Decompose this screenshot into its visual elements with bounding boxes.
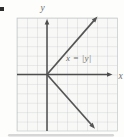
bottom-shadow-edge <box>8 134 114 136</box>
y-axis-label: y <box>40 3 46 13</box>
graph-figure: y x x = |y| <box>0 0 124 137</box>
x-axis-label: x <box>118 71 124 81</box>
list-bullet-fragment <box>0 7 4 11</box>
equation-label: x = |y| <box>65 53 92 63</box>
xy-graph-canvas: y x x = |y| <box>0 0 124 137</box>
